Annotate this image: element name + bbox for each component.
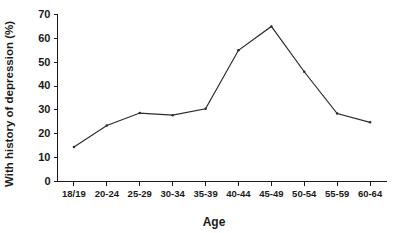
data-point [106,124,109,127]
data-point [204,107,207,110]
x-axis-tick-label: 35-39 [193,188,217,199]
x-axis-tick-labels: 18/1920-2425-2930-3435-3940-4445-4950-54… [62,188,383,199]
chart-axes [58,15,387,182]
data-point-markers [73,25,372,148]
data-point [369,121,372,124]
x-axis-tick-label: 20-24 [95,188,120,199]
y-axis-tick-label: 40 [38,79,50,91]
x-axis-tick-label: 18/19 [62,188,86,199]
y-axis-tick-labels: 010203040506070 [38,8,50,187]
data-point [237,49,240,52]
x-axis-tick-label: 60-64 [358,188,383,199]
data-point [73,146,76,149]
x-axis-tick-label: 30-34 [160,188,185,199]
y-axis-tick-label: 20 [38,127,50,139]
line-chart: 010203040506070 18/1920-2425-2930-3435-3… [0,0,396,233]
x-axis-tick-label: 45-49 [259,188,283,199]
y-axis-title: With history of depression (%) [3,21,15,187]
x-axis-tick-label: 40-44 [226,188,251,199]
data-series-group [73,25,372,148]
y-axis-tick-marks [54,15,58,182]
y-axis-tick-label: 0 [44,175,50,187]
data-line-depression [74,26,370,146]
x-axis-tick-label: 50-54 [292,188,317,199]
x-axis-tick-label: 25-29 [128,188,152,199]
data-point [336,112,339,115]
y-axis-tick-label: 60 [38,32,50,44]
y-axis-tick-label: 30 [38,103,50,115]
x-axis-tick-marks [74,182,370,186]
y-axis-tick-label: 10 [38,151,50,163]
x-axis-tick-label: 55-59 [325,188,349,199]
x-axis-title: Age [203,215,226,229]
data-point [303,71,306,74]
data-point [139,112,142,115]
chart-figure: 010203040506070 18/1920-2425-2930-3435-3… [0,0,396,233]
y-axis-tick-label: 70 [38,8,50,20]
data-point [171,114,174,117]
y-axis-tick-label: 50 [38,56,50,68]
data-point [270,25,273,28]
